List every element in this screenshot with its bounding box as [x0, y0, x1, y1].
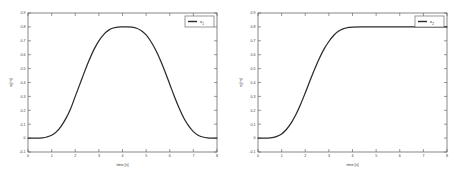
y-tick-label: 0.8	[21, 25, 26, 29]
y-tick-label: 0.6	[21, 53, 26, 57]
y-tick-label: 0.9	[21, 11, 26, 15]
y-tick-label: 0.5	[251, 67, 256, 71]
y-tick-label: 0.3	[21, 95, 26, 99]
y-tick-label: 0.4	[251, 81, 256, 85]
right-series-x2-path	[258, 27, 447, 138]
right-ylabel-units: [m]	[239, 78, 243, 83]
y-tick-label: 0.6	[251, 53, 256, 57]
x-tick-label: 5	[145, 154, 147, 158]
x-tick-label: 6	[169, 154, 171, 158]
right-xlabel-text: time [s]	[346, 163, 358, 167]
y-tick-label: 0	[254, 136, 256, 140]
left-legend[interactable]: x1	[185, 16, 214, 27]
left-plot-svg: -0.100.10.20.30.40.50.60.70.80.9 0123456…	[0, 0, 230, 172]
y-tick-label: 0.2	[251, 109, 256, 113]
right-plot-frame	[258, 13, 447, 152]
y-tick-label: 0.1	[251, 123, 256, 127]
left-x-axis-label: time [s]	[116, 163, 128, 167]
right-ylabel-text: x2[m]	[239, 78, 244, 87]
x-tick-label: 0	[257, 154, 259, 158]
y-tick-label: 0.2	[21, 109, 26, 113]
y-tick-label: 0.3	[251, 95, 256, 99]
right-legend[interactable]: x2	[415, 16, 444, 27]
right-y-axis-label: x2[m]	[239, 78, 244, 87]
right-x-axis-label: time [s]	[346, 163, 358, 167]
left-series-x1-path	[28, 27, 217, 138]
x-tick-label: 4	[122, 154, 124, 158]
left-y-axis-label: x1[m]	[9, 78, 14, 87]
x-tick-label: 1	[281, 154, 283, 158]
left-x-ticks: 012345678	[27, 13, 218, 158]
y-tick-label: 0	[24, 136, 26, 140]
x-tick-label: 4	[352, 154, 354, 158]
left-curve-group	[28, 27, 217, 138]
x-tick-label: 1	[51, 154, 53, 158]
x-tick-label: 6	[399, 154, 401, 158]
x-tick-label: 2	[304, 154, 306, 158]
y-tick-label: 0.5	[21, 67, 26, 71]
left-panel: -0.100.10.20.30.40.50.60.70.80.9 0123456…	[0, 0, 230, 172]
y-tick-label: 0.9	[251, 11, 256, 15]
y-tick-label: 0.1	[21, 123, 26, 127]
y-tick-label: 0.4	[21, 81, 26, 85]
y-tick-label: 0.8	[251, 25, 256, 29]
right-legend-subscript: 2	[432, 22, 434, 26]
right-curve-group	[258, 27, 447, 138]
x-tick-label: 7	[192, 154, 194, 158]
y-tick-label: 0.7	[21, 39, 26, 43]
right-y-ticks: -0.100.10.20.30.40.50.60.70.80.9	[249, 11, 447, 154]
left-y-ticks: -0.100.10.20.30.40.50.60.70.80.9	[19, 11, 217, 154]
x-tick-label: 3	[98, 154, 100, 158]
x-tick-label: 0	[27, 154, 29, 158]
right-x-ticks: 012345678	[257, 13, 448, 158]
right-plot-svg: -0.100.10.20.30.40.50.60.70.80.9 0123456…	[230, 0, 460, 172]
x-tick-label: 8	[446, 154, 448, 158]
left-ylabel-text: x1[m]	[9, 78, 14, 87]
y-tick-label: 0.7	[251, 39, 256, 43]
y-tick-label: -0.1	[249, 150, 255, 154]
left-ylabel-units: [m]	[9, 78, 13, 83]
figure-container: -0.100.10.20.30.40.50.60.70.80.9 0123456…	[0, 0, 461, 172]
x-tick-label: 2	[74, 154, 76, 158]
x-tick-label: 8	[216, 154, 218, 158]
left-legend-subscript: 1	[202, 22, 204, 26]
left-xlabel-text: time [s]	[116, 163, 128, 167]
x-tick-label: 5	[375, 154, 377, 158]
x-tick-label: 3	[328, 154, 330, 158]
right-panel: -0.100.10.20.30.40.50.60.70.80.9 0123456…	[230, 0, 460, 172]
y-tick-label: -0.1	[19, 150, 25, 154]
x-tick-label: 7	[422, 154, 424, 158]
